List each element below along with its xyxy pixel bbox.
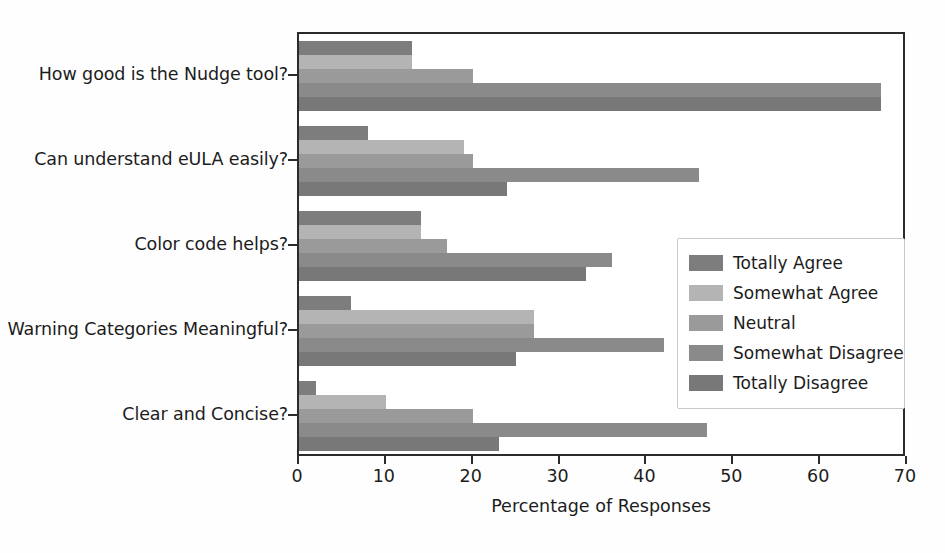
x-axis-tick-label: 0 [291,466,302,486]
x-axis-tick-mark [644,456,646,464]
legend-color-swatch [689,285,723,301]
y-axis-tick-mark [288,414,297,416]
bar [299,395,386,409]
bar [299,211,421,225]
legend-item-label: Somewhat Agree [733,285,878,302]
legend-item-label: Neutral [733,315,796,332]
legend-item[interactable]: Totally Agree [689,248,893,278]
x-axis-tick-label: 30 [546,466,568,486]
bar [299,69,473,83]
legend-item[interactable]: Somewhat Agree [689,278,893,308]
chart-legend: Totally AgreeSomewhat AgreeNeutralSomewh… [677,238,905,409]
bar [299,381,316,395]
x-axis-tick-mark [471,456,473,464]
x-axis-tick-label: 70 [894,466,916,486]
y-axis-tick-mark [288,159,297,161]
y-axis-tick-label: Can understand eULA easily? [34,149,288,169]
x-axis-tick-label: 60 [807,466,829,486]
bar [299,253,612,267]
legend-item-label: Somewhat Disagree [733,345,904,362]
y-axis-tick-mark [288,244,297,246]
legend-color-swatch [689,345,723,361]
bar [299,310,534,324]
legend-color-swatch [689,375,723,391]
x-axis-tick-mark [384,456,386,464]
bar [299,182,507,196]
y-axis-labels: How good is the Nudge tool?Can understan… [0,32,288,456]
bar [299,409,473,423]
x-axis-title: Percentage of Responses [297,496,905,516]
bar [299,126,368,140]
legend-item[interactable]: Somewhat Disagree [689,338,893,368]
x-axis-tick-label: 40 [633,466,655,486]
x-axis: Percentage of Responses 010203040506070 [297,456,905,546]
bar [299,437,499,451]
x-axis-tick-mark [818,456,820,464]
y-axis-tick-mark [288,74,297,76]
bar [299,267,586,281]
y-axis-tick-label: Color code helps? [134,234,288,254]
x-axis-tick-mark [558,456,560,464]
x-axis-tick-label: 20 [460,466,482,486]
bar [299,352,516,366]
bar [299,324,534,338]
bar [299,55,412,69]
bar [299,154,473,168]
bar [299,423,707,437]
legend-color-swatch [689,315,723,331]
x-axis-tick-mark [905,456,907,464]
y-axis-tick-label: How good is the Nudge tool? [39,64,288,84]
bar [299,140,464,154]
x-axis-tick-mark [297,456,299,464]
x-axis-tick-label: 10 [373,466,395,486]
bar [299,83,881,97]
y-axis-tick-mark [288,329,297,331]
y-axis-tick-label: Warning Categories Meaningful? [7,319,288,339]
x-axis-tick-label: 50 [720,466,742,486]
bar [299,168,699,182]
bar [299,97,881,111]
y-axis-tick-label: Clear and Concise? [122,404,288,424]
x-axis-tick-mark [731,456,733,464]
bar [299,41,412,55]
legend-color-swatch [689,255,723,271]
bar [299,296,351,310]
legend-item-label: Totally Disagree [733,375,868,392]
bar [299,225,421,239]
bar [299,239,447,253]
legend-item-label: Totally Agree [733,255,843,272]
bar [299,338,664,352]
chart-figure: How good is the Nudge tool?Can understan… [0,0,945,553]
legend-item[interactable]: Neutral [689,308,893,338]
legend-item[interactable]: Totally Disagree [689,368,893,398]
